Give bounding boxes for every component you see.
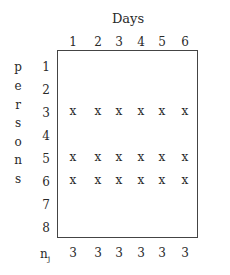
row-axis-letter: p bbox=[12, 60, 24, 74]
row-label-2: 2 bbox=[40, 83, 52, 97]
cell-mark: x bbox=[177, 150, 193, 164]
column-header-2: 2 bbox=[90, 35, 106, 49]
column-header-5: 5 bbox=[154, 35, 170, 49]
row-label-5: 5 bbox=[40, 152, 52, 166]
row-label-6: 6 bbox=[40, 175, 52, 189]
row-label-7: 7 bbox=[40, 198, 52, 212]
cell-mark: x bbox=[177, 173, 193, 187]
column-total-1: 3 bbox=[65, 246, 81, 260]
row-axis-letter: e bbox=[12, 79, 24, 93]
column-total-6: 3 bbox=[177, 246, 193, 260]
cell-mark: x bbox=[154, 173, 170, 187]
cell-mark: x bbox=[154, 104, 170, 118]
cell-mark: x bbox=[133, 173, 149, 187]
row-axis-letter: r bbox=[12, 98, 24, 112]
diagram-title: Days bbox=[0, 11, 230, 26]
cell-mark: x bbox=[65, 104, 81, 118]
column-header-4: 4 bbox=[133, 35, 149, 49]
cell-mark: x bbox=[177, 104, 193, 118]
row-axis-letter: s bbox=[12, 172, 24, 186]
cell-mark: x bbox=[65, 173, 81, 187]
row-axis-letter: o bbox=[12, 135, 24, 149]
nj-main: n bbox=[40, 247, 48, 261]
column-total-4: 3 bbox=[133, 246, 149, 260]
row-axis-letter: s bbox=[12, 116, 24, 130]
column-total-label: nj bbox=[40, 247, 50, 261]
row-axis-letter: n bbox=[12, 153, 24, 167]
grid-box bbox=[57, 50, 198, 238]
column-header-6: 6 bbox=[177, 35, 193, 49]
cell-mark: x bbox=[154, 150, 170, 164]
cell-mark: x bbox=[90, 150, 106, 164]
cell-mark: x bbox=[111, 150, 127, 164]
cell-mark: x bbox=[65, 150, 81, 164]
row-label-4: 4 bbox=[40, 129, 52, 143]
row-label-8: 8 bbox=[40, 221, 52, 235]
cell-mark: x bbox=[90, 173, 106, 187]
nj-subscript: j bbox=[48, 254, 50, 263]
cell-mark: x bbox=[90, 104, 106, 118]
column-total-3: 3 bbox=[111, 246, 127, 260]
cell-mark: x bbox=[133, 150, 149, 164]
cell-mark: x bbox=[111, 104, 127, 118]
column-total-5: 3 bbox=[154, 246, 170, 260]
column-total-2: 3 bbox=[90, 246, 106, 260]
cell-mark: x bbox=[111, 173, 127, 187]
column-header-3: 3 bbox=[111, 35, 127, 49]
row-label-3: 3 bbox=[40, 106, 52, 120]
row-label-1: 1 bbox=[40, 60, 52, 74]
column-header-1: 1 bbox=[65, 35, 81, 49]
cell-mark: x bbox=[133, 104, 149, 118]
